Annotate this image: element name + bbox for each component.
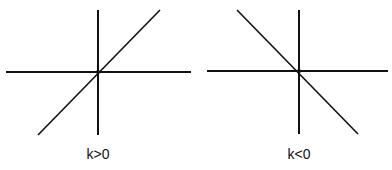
label-k-positive: k>0	[68, 146, 128, 162]
label-k-negative: k<0	[269, 146, 329, 162]
origin-point	[96, 70, 100, 74]
coordinate-plot-positive	[6, 10, 191, 135]
origin-point	[297, 69, 301, 73]
coordinate-plot-negative	[207, 10, 388, 134]
diagram-canvas	[0, 0, 392, 170]
